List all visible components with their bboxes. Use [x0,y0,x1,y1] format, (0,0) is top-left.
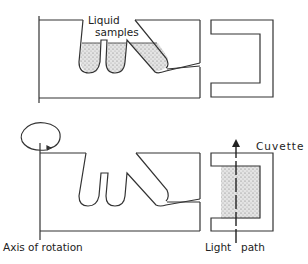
label-axis-of-rotation: Axis of rotation [3,242,83,253]
label-cuvette: Cuvette [256,141,304,152]
label-liquid: Liquid [88,15,120,26]
liquid-fill-top [80,43,168,73]
label-light: Light [205,242,231,253]
label-samples: samples [95,27,139,38]
rotation-arrow [21,123,60,150]
top-cuvette [211,20,273,97]
cuvette-liquid [221,166,260,219]
rotor-diagram: Liquid samples Cuvette Axis of rotation … [0,0,308,264]
diagram-drawing [0,0,308,264]
bottom-rotor-block [40,143,200,240]
label-path: path [241,242,265,253]
